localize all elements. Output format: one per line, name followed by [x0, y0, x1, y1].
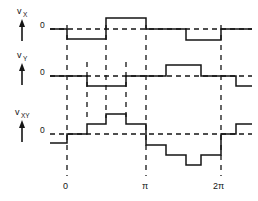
vy-trace — [50, 65, 252, 86]
vertical-reference-lines — [67, 25, 221, 176]
vxy-zero-label: 0 — [40, 125, 45, 135]
vx-panel — [50, 18, 252, 40]
waveform-figure: v X v Y v XY 0 0 0 — [0, 0, 258, 201]
xtick-label-2pi: 2π — [213, 181, 224, 191]
vxy-label-sub: XY — [21, 112, 30, 119]
vy-zero-label: 0 — [40, 67, 45, 77]
waveform-svg: v X v Y v XY 0 0 0 — [0, 0, 258, 201]
vxy-axis-label-group: v XY — [15, 107, 30, 142]
vx-axis-arrow-head — [19, 19, 25, 27]
vy-label-main: v — [17, 50, 22, 60]
xtick-label-pi: π — [142, 181, 148, 191]
vx-zero-label: 0 — [40, 20, 45, 30]
vy-label-sub: Y — [23, 55, 28, 62]
vx-label-sub: X — [23, 11, 28, 18]
vx-label-main: v — [17, 6, 22, 16]
vy-axis-arrow-head — [19, 63, 25, 71]
xtick-label-0: 0 — [63, 181, 68, 191]
vxy-label-main: v — [15, 107, 20, 117]
vxy-panel — [50, 114, 252, 165]
vy-axis-label-group: v Y — [17, 50, 28, 85]
vxy-axis-arrow-head — [19, 120, 25, 128]
vx-axis-label-group: v X — [17, 6, 28, 41]
vxy-trace — [50, 114, 252, 165]
vy-panel — [50, 65, 252, 86]
